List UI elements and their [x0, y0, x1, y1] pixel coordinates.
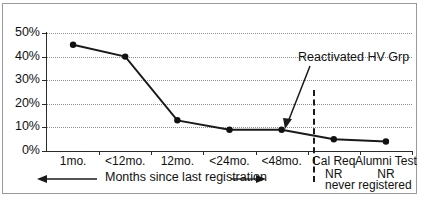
y-axis-tick [42, 57, 47, 58]
gridline [47, 33, 412, 34]
y-axis-tick [42, 80, 47, 81]
x-axis-line [46, 151, 412, 152]
y-axis-tick-label: 40% [0, 50, 40, 62]
y-axis-tick [42, 127, 47, 128]
never-registered-label: never registered [325, 178, 412, 192]
gridline [47, 80, 412, 81]
y-axis-tick-label: 0% [0, 144, 40, 156]
y-axis-tick-label: 10% [0, 120, 40, 132]
y-axis-tick [42, 33, 47, 34]
x-axis-title: Months since last registration [105, 170, 267, 184]
group-divider-dashed-line [313, 90, 315, 182]
y-axis-line [46, 32, 47, 152]
chart-figure: 0%10%20%30%40%50% 1mo.<12mo.12mo.<24mo.<… [0, 0, 421, 197]
y-axis-tick-label: 20% [0, 97, 40, 109]
annotation-reactivated-hv-grp: Reactivated HV Grp [298, 50, 409, 64]
x-axis-caption: Months since last registration [33, 170, 267, 186]
y-axis-tick-label: 50% [0, 26, 40, 38]
y-axis-tick [42, 104, 47, 105]
gridline [47, 127, 412, 128]
y-axis-tick [42, 151, 47, 152]
gridline [47, 104, 412, 105]
y-axis-tick-label: 30% [0, 73, 40, 85]
